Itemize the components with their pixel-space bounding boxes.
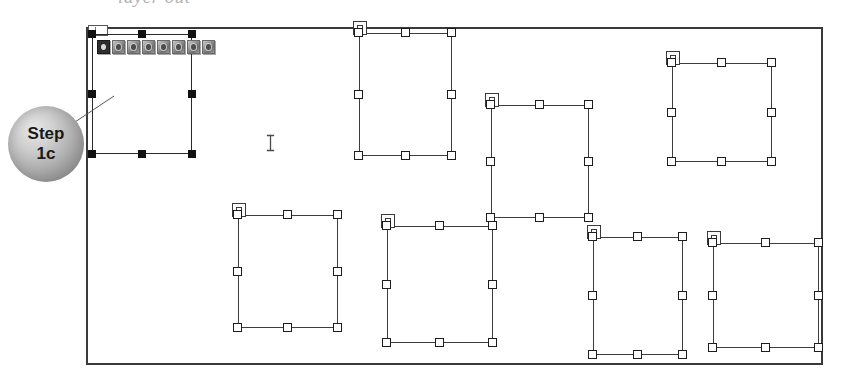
resize-handle-2[interactable]	[633, 232, 642, 241]
app-icon-4[interactable]	[142, 40, 155, 54]
resize-handle-6[interactable]	[667, 157, 676, 166]
container-4[interactable]	[672, 63, 772, 162]
resize-handle-2[interactable]	[535, 100, 544, 109]
container-7-body[interactable]	[593, 237, 683, 355]
icon-strip	[97, 40, 215, 54]
container-3[interactable]	[491, 105, 589, 218]
resize-handle-3[interactable]	[488, 221, 497, 230]
resize-handle-1[interactable]	[88, 30, 96, 38]
step-callout: Step 1c	[8, 106, 84, 182]
i-beam-cursor	[266, 134, 275, 152]
callout-line-2: 1c	[37, 144, 56, 164]
app-icon-5[interactable]	[157, 40, 170, 54]
resize-handle-1[interactable]	[588, 232, 597, 241]
container-7[interactable]	[593, 237, 683, 355]
resize-handle-3[interactable]	[767, 58, 776, 67]
resize-handle-1[interactable]	[233, 210, 242, 219]
resize-handle-8[interactable]	[814, 343, 823, 352]
resize-handle-4[interactable]	[382, 280, 391, 289]
container-2-body[interactable]	[359, 33, 452, 156]
resize-handle-6[interactable]	[88, 150, 96, 158]
resize-handle-8[interactable]	[333, 323, 342, 332]
container-8-body[interactable]	[713, 243, 819, 348]
resize-handle-6[interactable]	[354, 151, 363, 160]
resize-handle-7[interactable]	[401, 151, 410, 160]
resize-handle-8[interactable]	[188, 150, 196, 158]
resize-handle-2[interactable]	[761, 238, 770, 247]
resize-handle-3[interactable]	[447, 28, 456, 37]
resize-handle-2[interactable]	[401, 28, 410, 37]
resize-handle-6[interactable]	[382, 338, 391, 347]
resize-handle-8[interactable]	[488, 338, 497, 347]
resize-handle-6[interactable]	[708, 343, 717, 352]
resize-handle-2[interactable]	[717, 58, 726, 67]
resize-handle-8[interactable]	[767, 157, 776, 166]
resize-handle-5[interactable]	[333, 267, 342, 276]
container-3-body[interactable]	[491, 105, 589, 218]
clipped-heading: layer out	[118, 0, 378, 8]
resize-handle-2[interactable]	[283, 210, 292, 219]
resize-handle-5[interactable]	[678, 291, 687, 300]
resize-handle-8[interactable]	[447, 151, 456, 160]
container-8[interactable]	[713, 243, 819, 348]
resize-handle-5[interactable]	[767, 108, 776, 117]
app-icon-8[interactable]	[202, 40, 215, 54]
resize-handle-4[interactable]	[354, 90, 363, 99]
resize-handle-4[interactable]	[233, 267, 242, 276]
resize-handle-7[interactable]	[535, 213, 544, 222]
app-icon-7[interactable]	[187, 40, 200, 54]
resize-handle-7[interactable]	[138, 150, 146, 158]
container-5[interactable]	[238, 215, 338, 328]
app-icon-2[interactable]	[112, 40, 125, 54]
resize-handle-5[interactable]	[188, 90, 196, 98]
resize-handle-4[interactable]	[486, 157, 495, 166]
resize-handle-5[interactable]	[447, 90, 456, 99]
resize-handle-2[interactable]	[138, 30, 146, 38]
resize-handle-3[interactable]	[678, 232, 687, 241]
resize-handle-6[interactable]	[588, 350, 597, 359]
app-icon-3[interactable]	[127, 40, 140, 54]
resize-handle-4[interactable]	[708, 291, 717, 300]
container-6[interactable]	[387, 226, 493, 343]
resize-handle-1[interactable]	[667, 58, 676, 67]
resize-handle-3[interactable]	[188, 30, 196, 38]
resize-handle-3[interactable]	[584, 100, 593, 109]
app-icon-1[interactable]	[97, 40, 110, 54]
container-2[interactable]	[359, 33, 452, 156]
container-5-body[interactable]	[238, 215, 338, 328]
callout-line-1: Step	[28, 124, 65, 144]
resize-handle-7[interactable]	[435, 338, 444, 347]
resize-handle-5[interactable]	[814, 291, 823, 300]
resize-handle-7[interactable]	[283, 323, 292, 332]
resize-handle-5[interactable]	[584, 157, 593, 166]
resize-handle-8[interactable]	[584, 213, 593, 222]
resize-handle-4[interactable]	[667, 108, 676, 117]
resize-handle-2[interactable]	[435, 221, 444, 230]
resize-handle-1[interactable]	[354, 28, 363, 37]
resize-handle-7[interactable]	[761, 343, 770, 352]
resize-handle-7[interactable]	[717, 157, 726, 166]
app-icon-6[interactable]	[172, 40, 185, 54]
resize-handle-1[interactable]	[708, 238, 717, 247]
resize-handle-4[interactable]	[588, 291, 597, 300]
resize-handle-3[interactable]	[333, 210, 342, 219]
resize-handle-8[interactable]	[678, 350, 687, 359]
container-4-body[interactable]	[672, 63, 772, 162]
resize-handle-7[interactable]	[633, 350, 642, 359]
resize-handle-4[interactable]	[88, 90, 96, 98]
resize-handle-5[interactable]	[488, 280, 497, 289]
container-6-body[interactable]	[387, 226, 493, 343]
screenshot-root: layer out Step 1c	[0, 0, 841, 374]
resize-handle-1[interactable]	[486, 100, 495, 109]
resize-handle-3[interactable]	[814, 238, 823, 247]
resize-handle-1[interactable]	[382, 221, 391, 230]
resize-handle-6[interactable]	[233, 323, 242, 332]
